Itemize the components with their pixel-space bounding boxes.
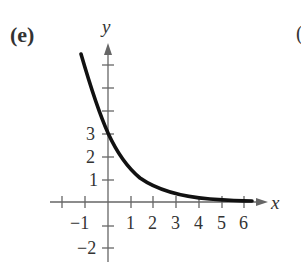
y-axis-label: y: [100, 16, 111, 37]
svg-text:5: 5: [217, 213, 226, 233]
svg-text:2: 2: [148, 213, 157, 233]
x-axis-arrow-icon: [256, 198, 268, 206]
graph-canvas: (e) ( x y −1 1 2 3 4 5 6 3: [0, 0, 301, 270]
svg-text:−1: −1: [70, 213, 89, 233]
svg-text:4: 4: [194, 213, 203, 233]
exponential-curve: [81, 54, 252, 201]
svg-text:−2: −2: [77, 238, 96, 258]
y-tick-labels: 3 2 1 −2: [77, 124, 98, 258]
svg-text:1: 1: [89, 170, 98, 190]
svg-text:2: 2: [86, 147, 95, 167]
svg-text:3: 3: [86, 124, 95, 144]
x-tick-labels: −1 1 2 3 4 5 6: [70, 213, 248, 233]
y-axis-arrow-icon: [104, 43, 112, 55]
next-panel-label: (: [296, 22, 301, 45]
x-axis-label: x: [270, 192, 280, 213]
svg-text:3: 3: [171, 213, 180, 233]
svg-text:6: 6: [239, 213, 248, 233]
panel-label: (e): [10, 22, 34, 47]
svg-text:1: 1: [126, 213, 135, 233]
